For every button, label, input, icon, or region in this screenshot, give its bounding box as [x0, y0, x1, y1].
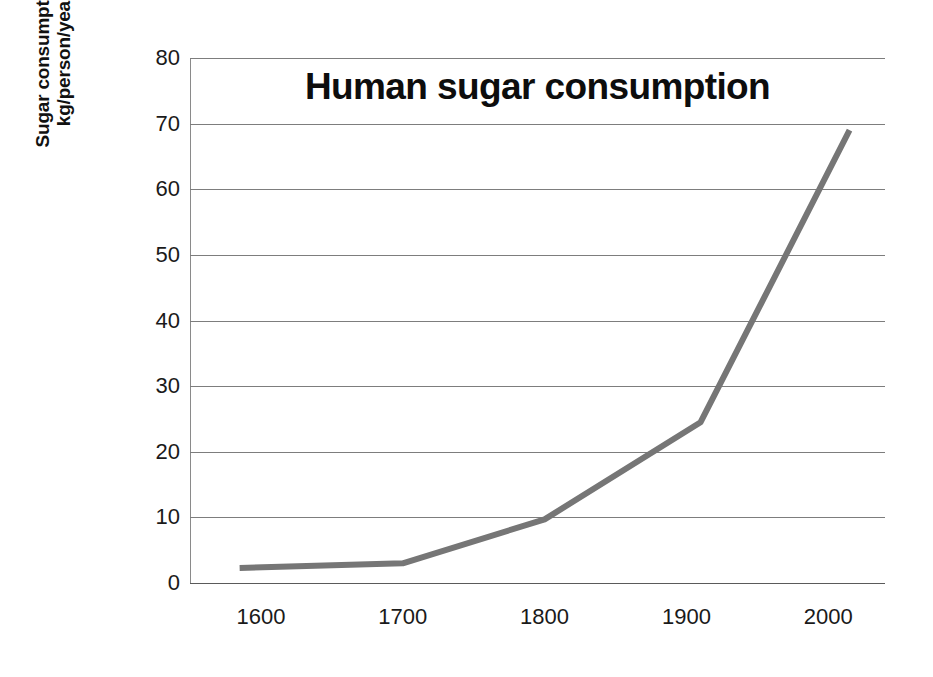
plot-area — [190, 58, 885, 583]
y-tick-label: 40 — [132, 308, 180, 334]
chart-title: Human sugar consumption — [190, 66, 885, 108]
x-tick-label: 2000 — [783, 604, 873, 630]
x-axis-tick-labels: 16001700180019002000 — [190, 604, 885, 644]
y-tick-label: 80 — [132, 45, 180, 71]
y-tick-label: 20 — [132, 439, 180, 465]
chart-container: Sugar consumption kg/person/year 8070605… — [0, 0, 933, 677]
x-tick-label: 1800 — [500, 604, 590, 630]
y-axis-title: Sugar consumption kg/person/year — [18, 0, 88, 220]
series-polyline — [240, 130, 850, 568]
y-tick-label: 30 — [132, 373, 180, 399]
data-line-series — [190, 58, 885, 583]
x-tick-label: 1900 — [641, 604, 731, 630]
y-axis-tick-labels: 80706050403020100 — [132, 58, 180, 583]
y-tick-label: 70 — [132, 111, 180, 137]
x-tick-label: 1600 — [216, 604, 306, 630]
y-tick-label: 60 — [132, 176, 180, 202]
x-tick-label: 1700 — [358, 604, 448, 630]
gridline — [190, 583, 885, 584]
y-axis-title-line-1: Sugar consumption — [32, 0, 53, 148]
y-axis-title-line-2: kg/person/year — [53, 0, 74, 126]
y-tick-label: 0 — [132, 570, 180, 596]
y-tick-label: 10 — [132, 504, 180, 530]
y-tick-label: 50 — [132, 242, 180, 268]
